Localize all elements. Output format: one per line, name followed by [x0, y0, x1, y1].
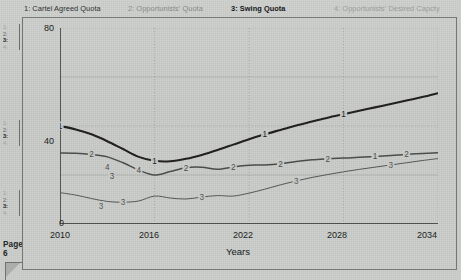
legend-item-opportunists-quota[interactable]: 2: Opportunists' Quota: [128, 4, 203, 14]
x-tick-label-2034: 2034: [417, 230, 437, 240]
plot-svg: 1111242222123333343: [60, 28, 438, 224]
sidebar-marker-2[interactable]: 2:: [3, 197, 20, 204]
x-tick-label-2016: 2016: [139, 230, 159, 240]
sidebar-marker-group-1[interactable]: 1: 2: 3: 4:: [3, 24, 20, 50]
svg-text:1: 1: [152, 157, 157, 166]
svg-text:3: 3: [110, 172, 115, 181]
svg-text:2: 2: [278, 160, 283, 169]
x-axis-title: Years: [226, 246, 250, 257]
sidebar-marker-4[interactable]: 4:: [3, 44, 20, 51]
legend-item-opportunists-desired-capacity[interactable]: 4: Opportunists' Desired Capcty: [334, 4, 440, 14]
sidebar-group-rule: [19, 120, 20, 146]
legend-item-swing-quota[interactable]: 3: Swing Quota: [231, 4, 286, 14]
series-layer: [60, 93, 438, 202]
legend-item-cartel-agreed-quota[interactable]: 1: Cartel Agreed Quota: [24, 4, 101, 14]
svg-text:2: 2: [404, 150, 409, 159]
svg-text:4: 4: [136, 166, 141, 175]
svg-text:3: 3: [199, 193, 204, 202]
sidebar-marker-group-2[interactable]: 1: 2: 3: 4:: [3, 120, 20, 146]
svg-text:2: 2: [231, 163, 236, 172]
svg-text:2: 2: [184, 164, 189, 173]
sidebar-marker-group-3[interactable]: 1: 2: 3: 4:: [3, 190, 20, 216]
svg-text:2: 2: [89, 150, 94, 159]
svg-text:1: 1: [262, 130, 267, 139]
x-tick-label-2022: 2022: [233, 230, 253, 240]
svg-text:2: 2: [325, 155, 330, 164]
sidebar-marker-1[interactable]: 1:: [3, 120, 20, 127]
x-tick-label-2010: 2010: [50, 230, 70, 240]
sidebar-marker-2[interactable]: 2:: [3, 31, 20, 38]
y-tick-label-80: 80: [28, 23, 54, 33]
chart-container: 80 40 0 2010 2016 2022 2028 2034 Years 1…: [24, 18, 461, 279]
sidebar-marker-1[interactable]: 1:: [3, 190, 20, 197]
gridlines: [60, 28, 438, 224]
svg-text:3: 3: [388, 161, 393, 170]
sidebar-marker-3[interactable]: 3:: [3, 37, 20, 44]
plot-area[interactable]: 1111242222123333343: [60, 28, 438, 224]
sidebar-marker-2[interactable]: 2:: [3, 127, 20, 134]
sidebar-marker-3[interactable]: 3:: [3, 203, 20, 210]
page-label: Page 6: [3, 240, 24, 258]
svg-text:1: 1: [373, 152, 378, 161]
sidebar-group-rule: [19, 190, 20, 216]
svg-text:4: 4: [105, 163, 110, 172]
sidebar-marker-4[interactable]: 4:: [3, 210, 20, 217]
svg-text:3: 3: [294, 177, 299, 186]
svg-text:3: 3: [99, 202, 104, 211]
sidebar: 1: 2: 3: 4: 1: 2: 3: 4: 1: 2: 3: 4: Page…: [0, 18, 24, 279]
sidebar-marker-4[interactable]: 4:: [3, 140, 20, 147]
sidebar-marker-1[interactable]: 1:: [3, 24, 20, 31]
svg-text:3: 3: [121, 198, 126, 207]
sidebar-marker-3[interactable]: 3:: [3, 133, 20, 140]
x-tick-label-2028: 2028: [327, 230, 347, 240]
sidebar-group-rule: [19, 24, 20, 50]
svg-text:1: 1: [341, 110, 346, 119]
legend-bar: 1: Cartel Agreed Quota 2: Opportunists' …: [0, 0, 461, 18]
page-corner-fold-edge: [5, 262, 23, 280]
y-tick-label-40: 40: [28, 136, 54, 146]
